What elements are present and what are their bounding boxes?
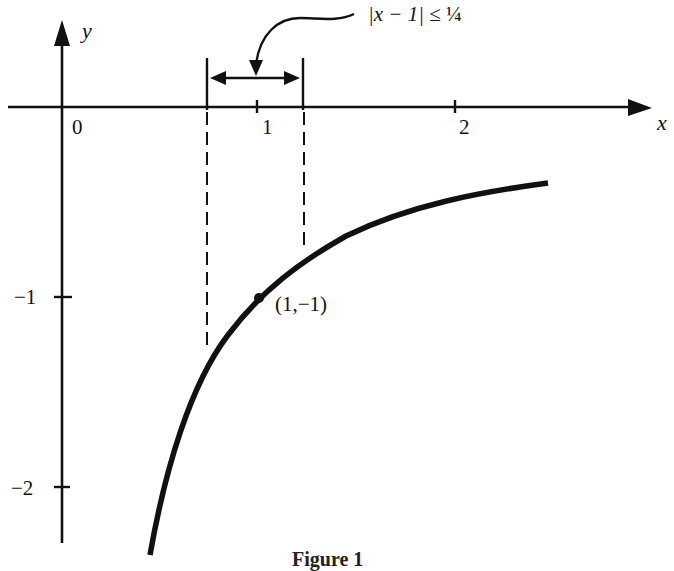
curve	[150, 183, 548, 555]
pointer-arrow	[249, 14, 354, 76]
interval-label: |x − 1| ≤ ¼	[368, 4, 462, 25]
point-label: (1,−1)	[275, 294, 327, 315]
y-axis-arrow-icon	[54, 20, 70, 46]
y-tick-label-m1: −1	[14, 287, 36, 308]
right-arrowhead-icon	[284, 71, 300, 85]
y-axis	[54, 20, 72, 543]
interval-label-text: |x − 1| ≤	[368, 2, 446, 26]
x-axis	[8, 99, 652, 116]
x-axis-arrow-icon	[628, 99, 652, 116]
x-axis-label: x	[657, 112, 667, 134]
figure-caption: Figure 1	[292, 548, 363, 571]
left-arrowhead-icon	[210, 71, 226, 85]
y-tick-label-m2: −2	[11, 478, 33, 499]
point-marker	[254, 293, 264, 303]
pointer-arrowhead-icon	[249, 60, 263, 76]
x-tick-label-1: 1	[262, 117, 273, 138]
x-tick-label-2: 2	[459, 117, 470, 138]
y-axis-label: y	[82, 20, 92, 42]
origin-label: 0	[72, 117, 83, 138]
interval-label-fraction: ¼	[446, 2, 462, 26]
